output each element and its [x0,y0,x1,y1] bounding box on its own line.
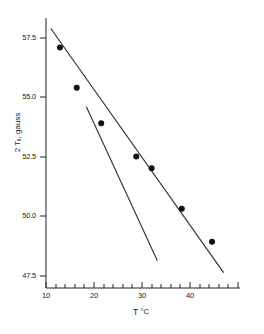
data-point [57,44,63,50]
y-tick-label-47-5: 47.5 [2,271,36,280]
fit-line-upper [51,29,224,273]
data-point [149,165,155,171]
y-axis-title-prefix: 2 T [13,141,22,152]
x-axis-title-unit: °C [141,307,149,316]
y-tick-label-57-5: 57.5 [2,33,36,42]
data-point [209,239,215,245]
figure-container: 57.5 55.0 52.5 50.0 47.5 10 20 30 40 2 T… [0,0,264,334]
x-tick-label-30: 30 [130,291,154,300]
data-point [98,120,104,126]
y-axis-title-suffix: , gauss [13,113,22,139]
x-axis-title: T °C [96,307,186,317]
x-axis-ticks [46,282,238,288]
x-tick-label-40: 40 [178,291,202,300]
y-tick-label-50-0: 50.0 [2,211,36,220]
plot-area [0,0,264,334]
fit-line-steep [86,107,157,261]
x-tick-label-10: 10 [34,291,58,300]
y-axis-title-subscript: ‖ [16,138,22,140]
data-point [133,154,139,160]
data-point [179,206,185,212]
x-tick-label-20: 20 [82,291,106,300]
data-point [74,85,80,91]
x-axis-title-symbol: T [133,307,138,317]
y-axis-ticks [40,38,46,276]
y-axis-title: 2 T‖, gauss [13,90,22,176]
